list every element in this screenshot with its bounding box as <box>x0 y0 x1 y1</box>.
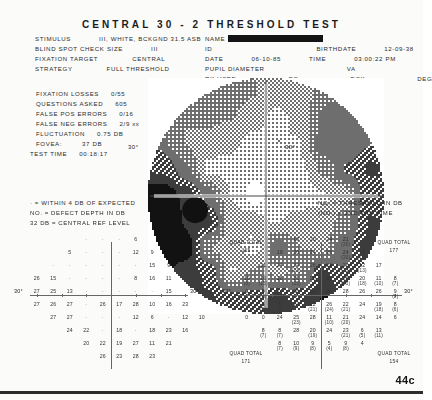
stimulus-label: STIMULUS <box>35 35 71 42</box>
grid-cell-value: · <box>118 314 120 320</box>
grid-cell-retest: (18) <box>355 281 369 287</box>
grid-cell: 23 <box>178 302 192 308</box>
grid-cell: 28 <box>289 328 303 334</box>
grid-cell-value: 28 <box>133 301 139 307</box>
grid-cell-value: 20 <box>310 327 316 333</box>
grid-cell-value: 21 <box>166 340 172 346</box>
grid-cell: 26(25) <box>289 276 303 287</box>
grid-cell: · <box>145 289 159 295</box>
axis-tick <box>136 294 137 297</box>
grid-cell: 16 <box>178 328 192 334</box>
grid-cell-value: 11 <box>166 275 172 281</box>
grid-cell: · <box>96 328 110 334</box>
grid-cell: 0 <box>240 289 254 295</box>
grid-cell: 24 <box>322 263 336 269</box>
grid-cell: 12 <box>129 315 143 321</box>
grid-cell-value: 28 <box>326 275 332 281</box>
grid-cell-value: 26 <box>326 249 332 255</box>
legend-left-2: 32 DB = CENTRAL REF LEVEL <box>30 220 130 226</box>
grayscale-deg-right: 30° <box>285 144 296 150</box>
id-label: ID <box>205 45 212 52</box>
grid-cell: 24(20) <box>339 250 353 261</box>
grid-cell-value: 25 <box>293 314 299 320</box>
grid-cell: 28 <box>306 276 320 282</box>
grid-cell-retest: (21) <box>306 307 320 313</box>
grid-cell: 24 <box>306 250 320 256</box>
grid-cell-value: 24 <box>326 262 332 268</box>
grid-cell-value: · <box>102 249 104 255</box>
fluctuation-row: FLUCTUATION0.75 DB <box>36 130 123 137</box>
axis-tick <box>346 294 347 297</box>
grid-cell-value: 26 <box>376 288 382 294</box>
questions-asked-row: QUESTIONS ASKED605 <box>36 100 127 107</box>
grid-cell: 24 <box>273 263 287 269</box>
false-neg-row: FALSE NEG ERRORS2/9 xx <box>36 120 140 127</box>
grid-cell-value: 11 <box>376 275 382 281</box>
grid-cell: 8(6) <box>388 302 402 313</box>
grid-cell: 11 <box>162 276 176 282</box>
grid-cell: 22 <box>79 328 93 334</box>
grid-cell: 16(15) <box>256 276 270 287</box>
grid-cell-value: 24 <box>359 301 365 307</box>
grid-cell-value: · <box>135 288 137 294</box>
grid-cell-value: 16 <box>166 301 172 307</box>
quad-total: QUAD TOTAL177 <box>371 240 417 253</box>
grid-cell-value: 25 <box>50 288 56 294</box>
legend-left-0: · = WITHIN 4 DB OF EXPECTED <box>30 200 135 206</box>
axis-tick <box>247 294 248 297</box>
grid-cell-value: 28 <box>343 288 349 294</box>
axis-tick <box>161 294 162 297</box>
grid-cell: 28 <box>273 276 287 282</box>
pupil-label: PUPIL DIAMETER <box>205 65 265 72</box>
grid-cell-retest: (24) <box>322 307 336 313</box>
grid-cell: · <box>162 315 176 321</box>
quad-total: QUAD TOTAL171 <box>223 351 269 364</box>
grid-cell: 18 <box>145 328 159 334</box>
legend-right-0: NO. = THRESHOLD IN DB <box>318 200 403 206</box>
pupil-row: PUPIL DIAMETERVA <box>205 65 356 72</box>
grid-cell-value: 27 <box>34 301 40 307</box>
grid-cell-value: 11 <box>326 314 332 320</box>
grid-cell: 24 <box>322 328 336 334</box>
grid-cell: · <box>79 237 93 243</box>
grid-cell-value: 26 <box>293 275 299 281</box>
grid-cell: · <box>112 276 126 282</box>
grid-cell: 9 <box>162 263 176 269</box>
blind-spot-value: III <box>151 45 158 52</box>
grid-cell: 26(25) <box>339 276 353 287</box>
grid-cell: 26 <box>355 289 369 295</box>
grid-cell: · <box>112 250 126 256</box>
grid-cell-value: 26 <box>34 275 40 281</box>
grid-cell-value: 10 <box>293 340 299 346</box>
grid-cell: 11(10) <box>322 315 336 326</box>
grid-cell-value: · <box>135 262 137 268</box>
grid-cell-value: 9 <box>344 340 347 346</box>
grayscale-deg-left: 30° <box>128 144 139 150</box>
legend-right-1: (NO.) = 2ND/3RD TIME <box>318 210 393 216</box>
grid-cell-value: 20 <box>310 236 316 242</box>
grid-cell-value: · <box>85 301 87 307</box>
grid-cell-retest: (13) <box>355 268 369 274</box>
grid-cell-value: 0 <box>245 314 248 320</box>
grid-cell: 0 <box>240 315 254 321</box>
grid-cell-value: 26 <box>50 301 56 307</box>
grid-cell-retest: (4) <box>273 307 287 313</box>
grid-cell-value: 16 <box>149 275 155 281</box>
grid-cell-value: 26 <box>343 275 349 281</box>
grid-cell-value: 24 <box>277 262 283 268</box>
grid-cell-retest: (21) <box>339 307 353 313</box>
grid-cell: 26 <box>289 289 303 295</box>
grid-cell-value: 6 <box>394 314 397 320</box>
grid-cell-value: · <box>102 262 104 268</box>
grid-cell-value: 9 <box>167 262 170 268</box>
blind-spot-label: BLIND SPOT CHECK SIZE <box>35 45 123 52</box>
grid-cell-value: 0 <box>262 314 265 320</box>
quad-total-value: 365 <box>223 248 269 253</box>
blind-spot-row: BLIND SPOT CHECK SIZEIII <box>35 45 158 52</box>
grid-cell-value: 26 <box>310 262 316 268</box>
axis-tick <box>185 294 186 297</box>
grid-cell: · <box>129 289 143 295</box>
quad-total-value: 171 <box>223 359 269 364</box>
grid-cell-value: 24 <box>310 249 316 255</box>
grid-cell-value: 24 <box>277 314 283 320</box>
